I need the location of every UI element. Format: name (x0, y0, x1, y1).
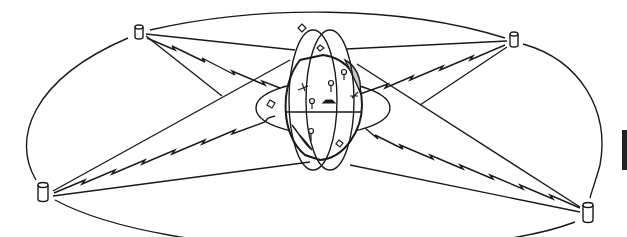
satellite-icon (267, 100, 275, 108)
node-top-right (510, 32, 518, 47)
satellite-network-diagram (0, 0, 627, 237)
node-left (38, 183, 48, 202)
node-top-left (135, 25, 143, 39)
globe (286, 55, 362, 160)
ship-icon (323, 100, 335, 103)
satellite-icon (317, 45, 324, 51)
scan-edge-artifact (622, 130, 627, 170)
node-right (583, 203, 593, 223)
satellite-icon (298, 24, 306, 32)
